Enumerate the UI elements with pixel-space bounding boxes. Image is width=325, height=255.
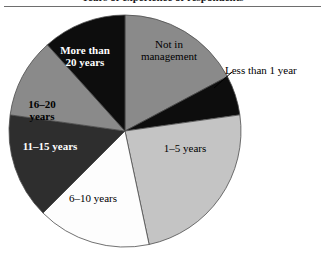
pie-label-11-15-years[interactable]: 11–15 years: [8, 140, 92, 152]
pie-label-more-than-20-years[interactable]: More than 20 years: [46, 44, 124, 69]
pie-label-6-10-years[interactable]: 6–10 years: [55, 192, 131, 204]
pie-label-16-20-years[interactable]: 16–20 years: [14, 98, 70, 123]
pie-label-less-than-1-year[interactable]: Less than 1 year: [225, 64, 321, 76]
horizontal-rule: [4, 6, 321, 7]
pie-label-not-in-management[interactable]: Not in management: [128, 38, 210, 63]
pie-label-1-5-years[interactable]: 1–5 years: [152, 142, 218, 154]
